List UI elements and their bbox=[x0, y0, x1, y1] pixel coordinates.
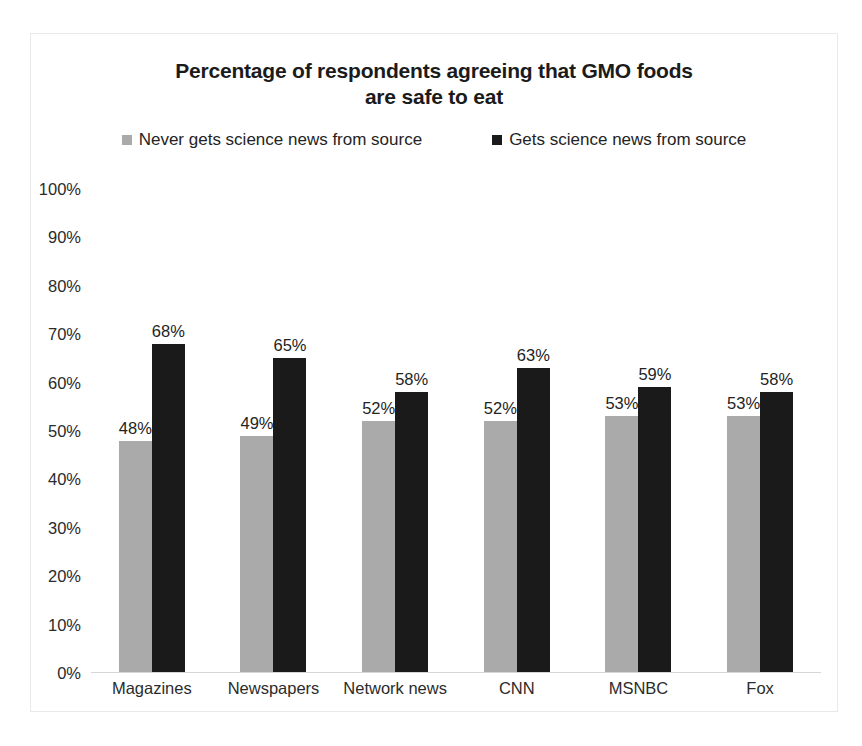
bar-value-label: 58% bbox=[395, 370, 428, 389]
bar-slot: 59% bbox=[638, 189, 671, 673]
y-axis-tick: 70% bbox=[48, 325, 81, 344]
bar-gets-news[interactable] bbox=[760, 392, 793, 673]
bar-slot: 52% bbox=[362, 189, 395, 673]
legend-item-label: Gets science news from source bbox=[509, 130, 746, 150]
bar-group: 53%58% bbox=[727, 189, 793, 673]
y-axis-tick: 90% bbox=[48, 228, 81, 247]
bar-slot: 48% bbox=[119, 189, 152, 673]
bar-groups: 48%68%49%65%52%58%52%63%53%59%53%58% bbox=[91, 189, 821, 673]
bar-never-gets-news[interactable] bbox=[727, 416, 760, 673]
plot-area: 48%68%49%65%52%58%52%63%53%59%53%58% bbox=[91, 189, 821, 673]
bar-slot: 49% bbox=[240, 189, 273, 673]
y-axis-tick: 60% bbox=[48, 373, 81, 392]
bar-never-gets-news[interactable] bbox=[605, 416, 638, 673]
bar-value-label: 63% bbox=[517, 346, 550, 365]
y-axis-tick: 80% bbox=[48, 276, 81, 295]
bar-gets-news[interactable] bbox=[152, 344, 185, 673]
bar-value-label: 58% bbox=[760, 370, 793, 389]
bar-value-label: 65% bbox=[273, 336, 306, 355]
y-axis-tick: 50% bbox=[48, 422, 81, 441]
bar-gets-news[interactable] bbox=[395, 392, 428, 673]
bar-gets-news[interactable] bbox=[638, 387, 671, 673]
bar-value-label: 52% bbox=[362, 399, 395, 418]
legend-item-label: Never gets science news from source bbox=[139, 130, 422, 150]
x-axis-line bbox=[91, 672, 821, 673]
bar-slot: 58% bbox=[760, 189, 793, 673]
y-axis-tick: 100% bbox=[39, 180, 81, 199]
x-axis: MagazinesNewspapersNetwork newsCNNMSNBCF… bbox=[91, 679, 821, 709]
chart-container: Percentage of respondents agreeing that … bbox=[30, 33, 838, 712]
bar-never-gets-news[interactable] bbox=[119, 441, 152, 673]
bar-value-label: 48% bbox=[119, 419, 152, 438]
y-axis-tick: 30% bbox=[48, 518, 81, 537]
y-axis-tick: 40% bbox=[48, 470, 81, 489]
bar-value-label: 52% bbox=[484, 399, 517, 418]
bar-slot: 58% bbox=[395, 189, 428, 673]
chart-title-line-1: Percentage of respondents agreeing that … bbox=[31, 58, 837, 84]
square-marker-icon bbox=[492, 135, 502, 145]
bar-group: 49%65% bbox=[240, 189, 306, 673]
chart-title: Percentage of respondents agreeing that … bbox=[31, 58, 837, 110]
y-axis-tick: 0% bbox=[57, 664, 81, 683]
bar-group: 52%63% bbox=[484, 189, 550, 673]
bar-slot: 53% bbox=[727, 189, 760, 673]
bar-group: 48%68% bbox=[119, 189, 185, 673]
bar-slot: 68% bbox=[152, 189, 185, 673]
y-axis-tick: 10% bbox=[48, 615, 81, 634]
bar-value-label: 53% bbox=[727, 394, 760, 413]
chart-title-line-2: are safe to eat bbox=[31, 84, 837, 110]
bar-group: 52%58% bbox=[362, 189, 428, 673]
bar-never-gets-news[interactable] bbox=[484, 421, 517, 673]
bar-value-label: 53% bbox=[605, 394, 638, 413]
bar-slot: 53% bbox=[605, 189, 638, 673]
y-axis: 100% 90% 80% 70% 60% 50% 40% 30% 20% 10%… bbox=[31, 189, 89, 673]
bar-gets-news[interactable] bbox=[273, 358, 306, 673]
bar-value-label: 68% bbox=[152, 322, 185, 341]
y-axis-tick: 20% bbox=[48, 567, 81, 586]
legend-item-never-gets-news: Never gets science news from source bbox=[122, 130, 422, 150]
bar-never-gets-news[interactable] bbox=[240, 436, 273, 673]
bar-value-label: 59% bbox=[638, 365, 671, 384]
bar-slot: 52% bbox=[484, 189, 517, 673]
legend-item-gets-news: Gets science news from source bbox=[492, 130, 746, 150]
bar-slot: 63% bbox=[517, 189, 550, 673]
bar-gets-news[interactable] bbox=[517, 368, 550, 673]
square-marker-icon bbox=[122, 135, 132, 145]
bar-never-gets-news[interactable] bbox=[362, 421, 395, 673]
chart-legend: Never gets science news from source Gets… bbox=[31, 130, 837, 150]
bar-value-label: 49% bbox=[240, 414, 273, 433]
bar-slot: 65% bbox=[273, 189, 306, 673]
bar-group: 53%59% bbox=[605, 189, 671, 673]
